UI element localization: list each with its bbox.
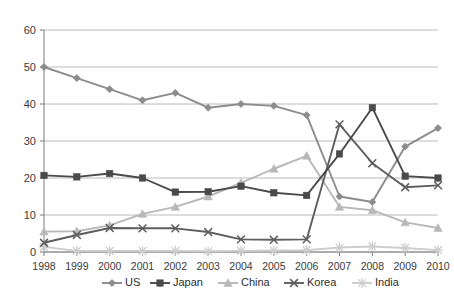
series-china — [40, 152, 442, 235]
datapoint-japan-1998 — [41, 172, 47, 178]
datapoint-india-2010 — [433, 245, 443, 255]
datapoint-us-2007 — [336, 193, 343, 200]
x-tick-labels: 1998199920002001200220032004200520062007… — [32, 260, 450, 272]
x-tick-label: 2010 — [426, 260, 450, 272]
datapoint-us-2000 — [106, 86, 113, 93]
x-tick-label: 2000 — [98, 260, 122, 272]
legend-label: China — [241, 276, 271, 288]
datapoint-india-2003 — [203, 246, 213, 256]
datapoint-india-1999 — [72, 246, 82, 256]
legend-item-china[interactable]: China — [218, 276, 271, 288]
datapoint-us-2002 — [172, 89, 179, 96]
datapoint-japan-2003 — [205, 188, 211, 194]
datapoint-us-2005 — [270, 102, 277, 109]
y-tick-label: 20 — [24, 172, 36, 184]
datapoint-japan-2006 — [303, 192, 309, 198]
x-tick-label: 2006 — [295, 260, 319, 272]
datapoint-india-2002 — [170, 246, 180, 256]
datapoint-japan-2007 — [336, 151, 342, 157]
y-axis — [40, 30, 44, 252]
y-tick-label: 10 — [24, 209, 36, 221]
datapoint-japan-2001 — [139, 175, 145, 181]
datapoint-japan-2010 — [435, 175, 441, 181]
x-tick-label: 1999 — [65, 260, 89, 272]
datapoint-india-2006 — [302, 245, 312, 255]
legend-label: US — [125, 276, 140, 288]
datapoint-india-2005 — [269, 246, 279, 256]
datapoint-us-1998 — [40, 63, 47, 70]
datapoint-india-2000 — [105, 246, 115, 256]
x-tick-label: 2005 — [262, 260, 286, 272]
legend-item-japan[interactable]: Japan — [150, 276, 203, 288]
data-series-group — [39, 63, 443, 256]
legend-item-us[interactable]: US — [102, 276, 140, 288]
datapoint-japan-2009 — [402, 173, 408, 179]
legend-marker-us — [108, 279, 115, 286]
legend-label: Korea — [307, 276, 337, 288]
x-tick-label: 2009 — [393, 260, 417, 272]
y-tick-labels: 0102030405060 — [24, 24, 36, 258]
legend-item-india[interactable]: India — [352, 276, 400, 288]
chart-canvas: 0102030405060 19981999200020012002200320… — [0, 0, 454, 301]
legend-label: Japan — [173, 276, 203, 288]
legend-item-korea[interactable]: Korea — [284, 276, 337, 288]
datapoint-india-2008 — [367, 242, 377, 252]
datapoint-japan-2004 — [238, 183, 244, 189]
x-tick-label: 2007 — [328, 260, 352, 272]
x-tick-label: 2002 — [164, 260, 188, 272]
datapoint-us-2004 — [237, 100, 244, 107]
y-tick-label: 40 — [24, 98, 36, 110]
x-tick-label: 2003 — [196, 260, 220, 272]
line-chart: 0102030405060 19981999200020012002200320… — [0, 0, 454, 301]
datapoint-china-2006 — [302, 152, 310, 160]
datapoint-japan-2008 — [369, 105, 375, 111]
gridlines — [44, 30, 438, 252]
y-tick-label: 30 — [24, 135, 36, 147]
datapoint-india-2001 — [138, 246, 148, 256]
x-tick-label: 2008 — [361, 260, 385, 272]
datapoint-japan-2005 — [271, 190, 277, 196]
series-japan — [41, 105, 441, 199]
x-tick-label: 2004 — [229, 260, 253, 272]
datapoint-us-1999 — [73, 75, 80, 82]
legend-label: India — [375, 276, 400, 288]
y-tick-label: 50 — [24, 61, 36, 73]
datapoint-india-2004 — [236, 246, 246, 256]
datapoint-japan-2000 — [106, 170, 112, 176]
legend-marker-india — [357, 278, 367, 288]
chart-legend: USJapanChinaKoreaIndia — [102, 276, 400, 288]
datapoint-us-2001 — [139, 97, 146, 104]
datapoint-us-2006 — [303, 112, 310, 119]
legend-marker-japan — [157, 280, 163, 286]
datapoint-korea-2008 — [368, 159, 376, 167]
datapoint-us-2003 — [205, 104, 212, 111]
datapoint-india-2007 — [335, 243, 345, 253]
series-india — [39, 242, 443, 257]
x-tick-label: 2001 — [131, 260, 155, 272]
y-tick-label: 60 — [24, 24, 36, 36]
datapoint-us-2010 — [434, 124, 441, 131]
datapoint-japan-2002 — [172, 189, 178, 195]
x-tick-label: 1998 — [32, 260, 56, 272]
datapoint-india-2009 — [400, 243, 410, 253]
datapoint-japan-1999 — [74, 174, 80, 180]
y-tick-label: 0 — [30, 246, 36, 258]
